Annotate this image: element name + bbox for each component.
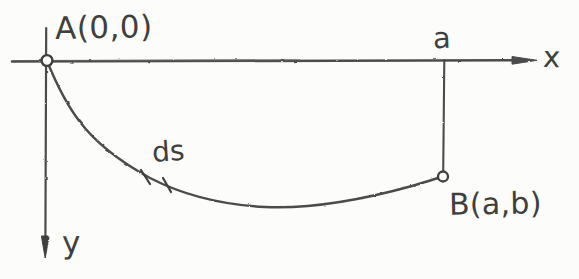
x-axis-arrowhead (512, 57, 537, 65)
point-b-label: B(a,b) (449, 185, 542, 222)
diagram-canvas: A(0,0) a x y ds B(a,b) (0, 0, 579, 279)
x-axis-label: x (542, 40, 560, 75)
drop-line-to-b (443, 60, 444, 173)
point-marker-a (42, 55, 53, 66)
brachistochrone-curve (47, 61, 441, 207)
y-axis-label: y (62, 224, 81, 260)
y-axis-arrowhead (41, 236, 49, 258)
arc-element-label: ds (151, 134, 186, 169)
point-a-label: A(0,0) (55, 8, 153, 46)
point-marker-b (438, 172, 448, 182)
abscissa-tick-label: a (432, 21, 451, 56)
